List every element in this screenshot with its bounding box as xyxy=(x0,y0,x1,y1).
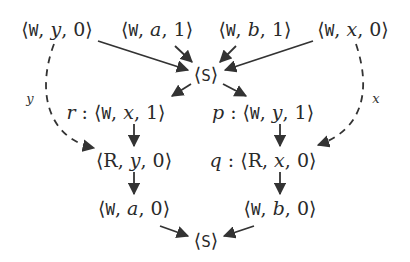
node-w-y-0: ⟨W, y, 0⟩ xyxy=(21,18,93,40)
edge-wa0-s xyxy=(160,226,188,236)
edge-wb0-s xyxy=(224,226,254,236)
edge-wy0-s xyxy=(98,41,188,70)
edge-label-x: x xyxy=(372,91,379,106)
edge-dashed-y xyxy=(46,44,94,148)
node-w-x-0: ⟨W, x, 0⟩ xyxy=(317,18,388,40)
node-s-bottom: ⟨S⟩ xyxy=(194,229,218,251)
node-q: q : ⟨R, x, 0⟩ xyxy=(210,149,317,171)
node-w-b-1: ⟨W, b, 1⟩ xyxy=(219,18,292,40)
node-w-b-0: ⟨W, b, 0⟩ xyxy=(244,197,317,219)
node-s-top: ⟨S⟩ xyxy=(194,63,218,85)
node-r: r : ⟨W, x, 1⟩ xyxy=(66,101,165,123)
edge-wa1-s xyxy=(175,46,192,62)
node-p: p : ⟨W, y, 1⟩ xyxy=(212,101,314,123)
edge-wb1-s xyxy=(220,46,236,62)
edge-wx0-s xyxy=(225,41,313,70)
edge-dashed-x xyxy=(318,44,363,145)
edge-s-p xyxy=(223,84,246,96)
edge-s-r xyxy=(172,84,191,96)
node-r-y-0: ⟨R, y, 0⟩ xyxy=(96,149,172,171)
edge-label-y: y xyxy=(26,91,33,106)
node-w-a-1: ⟨W, a, 1⟩ xyxy=(121,18,193,40)
node-w-a-0: ⟨W, a, 0⟩ xyxy=(98,197,170,219)
